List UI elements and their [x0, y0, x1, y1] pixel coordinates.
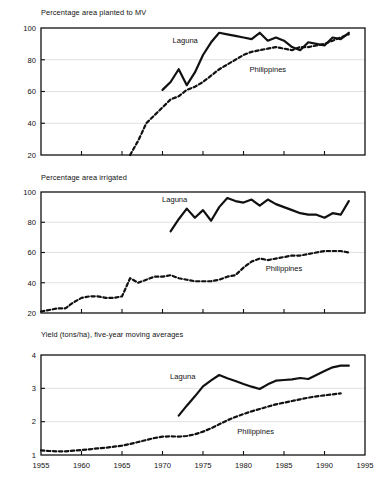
y-tick-label: 40: [28, 119, 36, 128]
plot-0: 20406080100LagunaPhilippines: [0, 0, 387, 168]
series-annotation-philippines: Philippines: [249, 65, 286, 74]
y-tick-label: 80: [28, 56, 36, 65]
y-tick-label: 40: [28, 279, 36, 288]
series-line-philippines: [41, 251, 349, 312]
y-tick-label: 1: [32, 451, 36, 460]
x-tick-label: 1955: [33, 461, 50, 470]
series-annotation-philippines: Philippines: [237, 427, 274, 436]
y-tick-label: 20: [28, 309, 36, 318]
x-tick-label: 1960: [73, 461, 90, 470]
chart-panel-area-planted-mv: Percentage area planted to MV 2040608010…: [0, 0, 387, 168]
chart-panel-yield: Yield (tons/ha), five-year moving averag…: [0, 325, 387, 490]
series-line-philippines: [130, 34, 349, 155]
x-tick-label: 1985: [276, 461, 293, 470]
y-tick-label: 60: [28, 248, 36, 257]
x-tick-label: 1965: [114, 461, 131, 470]
x-tick-label: 1980: [235, 461, 252, 470]
plot-1: 20406080100LagunaPhilippines: [0, 165, 387, 327]
x-tick-label: 1975: [195, 461, 212, 470]
series-annotation-laguna: Laguna: [170, 372, 196, 381]
series-annotation-laguna: Laguna: [173, 36, 199, 45]
x-tick-label: 1995: [357, 461, 374, 470]
figure-container: Percentage area planted to MV 2040608010…: [0, 0, 387, 490]
y-tick-label: 4: [32, 351, 36, 360]
series-annotation-laguna: Laguna: [162, 195, 188, 204]
x-tick-label: 1970: [154, 461, 171, 470]
y-tick-label: 100: [23, 188, 36, 197]
y-tick-label: 80: [28, 218, 36, 227]
plot-frame: [41, 355, 365, 455]
y-tick-label: 3: [32, 384, 36, 393]
series-line-laguna: [171, 198, 349, 231]
y-tick-label: 60: [28, 87, 36, 96]
x-tick-label: 1990: [316, 461, 333, 470]
series-annotation-philippines: Philippines: [266, 264, 303, 273]
plot-2: 1234195519601965197019751980198519901995…: [0, 325, 387, 490]
y-tick-label: 100: [23, 24, 36, 33]
chart-panel-area-irrigated: Percentage area irrigated 20406080100Lag…: [0, 165, 387, 327]
y-tick-label: 20: [28, 151, 36, 160]
y-tick-label: 2: [32, 417, 36, 426]
